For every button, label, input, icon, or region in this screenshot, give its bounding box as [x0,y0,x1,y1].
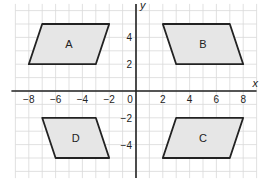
x-tick-label: 0 [127,94,133,105]
x-tick-label: 8 [240,94,246,105]
x-tick-label: −4 [77,94,89,105]
x-tick-label: 4 [187,94,193,105]
x-tick-label: 2 [160,94,166,105]
x-tick-label: −2 [103,94,115,105]
y-tick-label: −4 [121,140,133,151]
y-tick-label: 4 [126,32,132,43]
coordinate-grid-diagram: ABCD −8−6−4−20246842−2−4 x y [0,0,271,179]
shape-label-a: A [65,38,73,50]
x-tick-label: −6 [50,94,62,105]
x-tick-label: 6 [214,94,220,105]
y-tick-label: −2 [121,113,133,124]
shape-label-b: B [199,38,206,50]
x-tick-label: −8 [23,94,35,105]
shape-label-d: D [72,132,80,144]
x-axis-label: x [252,77,259,89]
shape-label-c: C [199,132,207,144]
y-tick-label: 2 [126,59,132,70]
y-axis-label: y [139,0,147,11]
